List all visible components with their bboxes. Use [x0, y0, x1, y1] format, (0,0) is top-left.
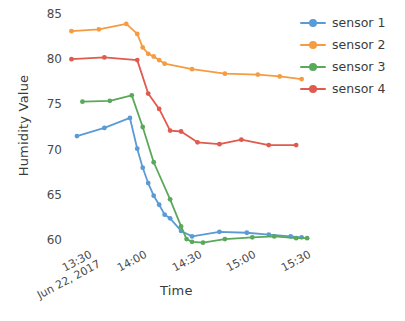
data-point — [146, 51, 151, 56]
data-point — [96, 27, 101, 32]
data-point — [157, 107, 162, 112]
legend-item[interactable]: sensor 4 — [300, 78, 405, 99]
data-point — [255, 72, 260, 77]
y-tick-label: 60 — [22, 233, 62, 247]
legend-swatch-icon — [300, 17, 326, 29]
series-line — [77, 118, 302, 237]
legend: sensor 1sensor 2sensor 3sensor 4 — [300, 12, 405, 100]
legend-label: sensor 3 — [332, 59, 385, 74]
data-point — [195, 140, 200, 145]
data-point — [294, 143, 299, 148]
data-point — [190, 234, 195, 239]
data-point — [184, 237, 189, 242]
data-point — [157, 58, 162, 63]
data-point — [69, 57, 74, 62]
data-point — [102, 126, 107, 131]
data-point — [151, 193, 156, 198]
data-point — [168, 197, 173, 202]
data-point — [146, 181, 151, 186]
data-point — [124, 22, 129, 27]
data-point — [162, 212, 167, 217]
legend-item[interactable]: sensor 3 — [300, 56, 405, 77]
legend-swatch-icon — [300, 39, 326, 51]
data-point — [75, 134, 80, 139]
data-point — [168, 128, 173, 133]
humidity-line-chart: Humidity Value 858075706560 13:3014:0014… — [0, 0, 405, 321]
data-point — [239, 137, 244, 142]
legend-label: sensor 4 — [332, 81, 385, 96]
data-point — [107, 98, 112, 103]
data-point — [201, 240, 206, 245]
data-point — [135, 146, 140, 151]
data-point — [244, 230, 249, 235]
y-tick-label: 75 — [22, 97, 62, 111]
y-tick-label: 65 — [22, 188, 62, 202]
data-point — [179, 129, 184, 134]
data-point — [135, 58, 140, 63]
data-point — [179, 224, 184, 229]
y-tick-label: 85 — [22, 7, 62, 21]
data-point — [128, 116, 133, 121]
data-point — [217, 229, 222, 234]
legend-label: sensor 1 — [332, 15, 385, 30]
series-sensor-1 — [75, 116, 304, 240]
data-point — [129, 93, 134, 98]
data-point — [250, 235, 255, 240]
data-point — [162, 61, 167, 66]
data-point — [151, 54, 156, 59]
y-tick-label: 70 — [22, 143, 62, 157]
x-axis-title: Time — [160, 283, 193, 298]
y-axis-tick-labels: 858075706560 — [22, 0, 62, 321]
series-sensor-3 — [80, 93, 309, 245]
data-point — [266, 143, 271, 148]
data-point — [294, 236, 299, 241]
data-point — [135, 31, 140, 36]
data-point — [223, 237, 228, 242]
data-point — [223, 71, 228, 76]
series-line — [71, 24, 301, 79]
data-point — [80, 99, 85, 104]
y-tick-label: 80 — [22, 52, 62, 66]
data-point — [157, 202, 162, 207]
data-point — [146, 91, 151, 96]
legend-item[interactable]: sensor 2 — [300, 34, 405, 55]
data-point — [151, 160, 156, 165]
data-point — [305, 236, 310, 241]
data-point — [277, 74, 282, 79]
data-point — [168, 216, 173, 221]
data-point — [69, 29, 74, 34]
series-line — [82, 95, 307, 242]
legend-swatch-icon — [300, 83, 326, 95]
data-point — [102, 55, 107, 60]
data-point — [190, 239, 195, 244]
data-point — [217, 142, 222, 147]
data-point — [190, 67, 195, 72]
legend-item[interactable]: sensor 1 — [300, 12, 405, 33]
data-point — [140, 125, 145, 130]
legend-label: sensor 2 — [332, 37, 385, 52]
series-sensor-2 — [69, 22, 304, 82]
data-point — [272, 234, 277, 239]
data-point — [140, 165, 145, 170]
data-point — [140, 45, 145, 50]
legend-swatch-icon — [300, 61, 326, 73]
